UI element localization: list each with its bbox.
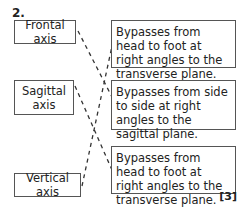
right-box-2: Bypasses from side to side at right angl… [111,80,236,130]
left-box-sagittal-axis: Sagittal axis [14,80,74,115]
marks-label: [3] [219,190,237,203]
right-box-text: Bypasses from head to foot at right angl… [116,25,222,81]
left-box-label: Frontal axis [15,18,75,46]
right-box-3: Bypasses from head to foot at right angl… [111,146,236,194]
right-box-1: Bypasses from head to foot at right angl… [111,20,236,68]
left-box-label: Sagittal axis [21,84,67,112]
line-sagittal-to-head [75,86,112,170]
left-box-label: Vertical axis [15,171,80,199]
left-box-vertical-axis: Vertical axis [14,173,81,197]
right-box-text: Bypasses from head to foot at right angl… [116,151,222,207]
left-box-frontal-axis: Frontal axis [14,20,76,44]
line-frontal-to-side [78,31,112,97]
